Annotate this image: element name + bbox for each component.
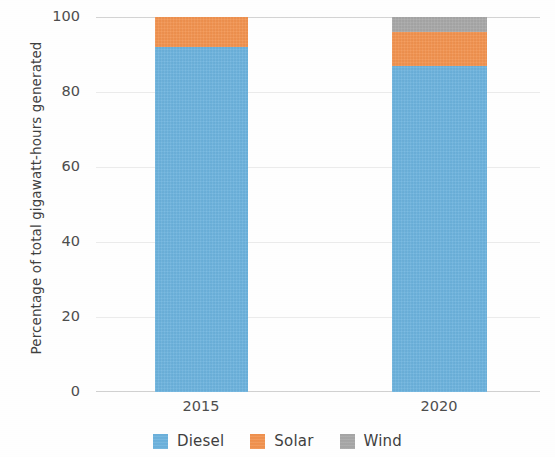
- legend-label-solar: Solar: [274, 432, 313, 450]
- bar-segment-2015-solar[interactable]: [155, 17, 248, 47]
- bar-segment-2020-solar[interactable]: [392, 32, 487, 66]
- legend-swatch-diesel-icon: [153, 434, 168, 449]
- plot-area: [96, 17, 540, 392]
- chart-legend: Diesel Solar Wind: [0, 432, 555, 450]
- bar-2020[interactable]: [392, 17, 487, 392]
- y-tick-label-100: 100: [22, 9, 80, 24]
- legend-item-solar[interactable]: Solar: [250, 432, 313, 450]
- y-tick-label-40: 40: [22, 234, 80, 249]
- y-tick-label-80: 80: [22, 84, 80, 99]
- legend-swatch-wind-icon: [340, 434, 355, 449]
- legend-item-wind[interactable]: Wind: [340, 432, 403, 450]
- legend-label-diesel: Diesel: [177, 432, 224, 450]
- x-tick-label-2015: 2015: [141, 399, 261, 414]
- y-tick-label-60: 60: [22, 159, 80, 174]
- bar-segment-2015-diesel[interactable]: [155, 47, 248, 392]
- bar-segment-2020-wind[interactable]: [392, 17, 487, 32]
- y-tick-label-20: 20: [22, 309, 80, 324]
- legend-label-wind: Wind: [364, 432, 403, 450]
- stacked-bar-chart: Percentage of total gigawatt-hours gener…: [0, 0, 555, 457]
- x-tick-label-2020: 2020: [379, 399, 499, 414]
- legend-swatch-solar-icon: [250, 434, 265, 449]
- bar-2015[interactable]: [155, 17, 248, 392]
- y-tick-label-0: 0: [22, 384, 80, 399]
- bar-segment-2020-diesel[interactable]: [392, 66, 487, 392]
- legend-item-diesel[interactable]: Diesel: [153, 432, 224, 450]
